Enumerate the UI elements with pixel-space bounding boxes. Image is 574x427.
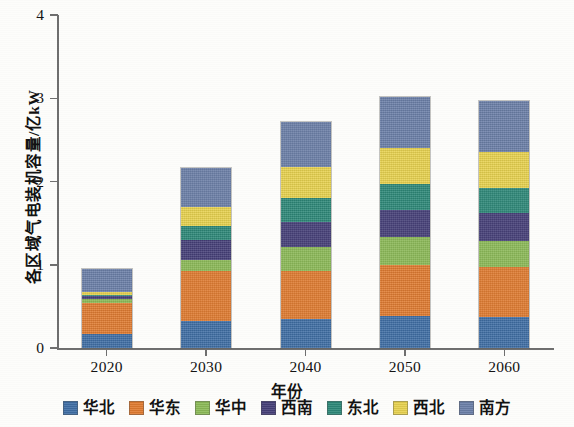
bar-segment-东北[interactable] [281, 198, 331, 221]
bar-segment-西北[interactable] [181, 207, 231, 225]
legend-item-华中[interactable]: 华中 [195, 400, 247, 416]
plot-area [57, 15, 554, 348]
legend-swatch-icon [393, 401, 408, 415]
bar-segment-西南[interactable] [479, 213, 529, 240]
y-axis-tick-label: 0 [0, 339, 44, 357]
bar-stack [380, 97, 430, 348]
legend-item-西南[interactable]: 西南 [261, 400, 313, 416]
bar-segment-华中[interactable] [380, 237, 430, 264]
legend-item-东北[interactable]: 东北 [327, 400, 379, 416]
bar-segment-南方[interactable] [181, 168, 231, 207]
bar-segment-西南[interactable] [82, 296, 132, 298]
bar-2040[interactable] [281, 15, 331, 348]
bar-segment-华北[interactable] [181, 321, 231, 348]
legend-swatch-icon [261, 401, 276, 415]
bar-segment-华东[interactable] [82, 303, 132, 334]
legend-swatch-icon [63, 401, 78, 415]
bar-segment-南方[interactable] [479, 101, 529, 153]
bar-segment-华北[interactable] [281, 319, 331, 348]
legend-swatch-icon [129, 401, 144, 415]
bar-2030[interactable] [181, 15, 231, 348]
bar-segment-华东[interactable] [281, 271, 331, 319]
x-axis-tick-label: 2040 [266, 358, 346, 376]
bar-segment-华中[interactable] [181, 260, 231, 271]
bar-segment-西北[interactable] [281, 167, 331, 198]
bar-segment-西北[interactable] [479, 152, 529, 188]
legend-item-华东[interactable]: 华东 [129, 400, 181, 416]
chart-legend: 华北华东华中西南东北西北南方 [0, 400, 574, 416]
x-axis-tick [205, 349, 207, 356]
bar-segment-华东[interactable] [380, 265, 430, 317]
bar-stack [82, 269, 132, 348]
x-axis-tick-label: 2050 [365, 358, 445, 376]
bar-segment-华北[interactable] [380, 316, 430, 348]
legend-swatch-icon [459, 401, 474, 415]
legend-label: 西北 [413, 400, 445, 416]
x-axis-tick-label: 2020 [67, 358, 147, 376]
bar-2050[interactable] [380, 15, 430, 348]
bar-segment-东北[interactable] [380, 184, 430, 210]
x-axis-title: 年份 [0, 379, 574, 401]
bar-segment-华中[interactable] [281, 247, 331, 270]
bar-stack [181, 168, 231, 348]
x-axis-tick-label: 2060 [464, 358, 544, 376]
bar-segment-西北[interactable] [82, 292, 132, 294]
bar-segment-华东[interactable] [479, 267, 529, 317]
y-axis-tick-label: 4 [0, 6, 44, 24]
legend-label: 华中 [215, 400, 247, 416]
x-axis-tick [106, 349, 108, 356]
bar-segment-华北[interactable] [479, 317, 529, 348]
legend-label: 南方 [479, 400, 511, 416]
legend-swatch-icon [195, 401, 210, 415]
legend-label: 东北 [347, 400, 379, 416]
y-axis-tick-label: 2 [0, 173, 44, 191]
x-axis-tick [305, 349, 307, 356]
x-axis-tick [504, 349, 506, 356]
legend-item-西北[interactable]: 西北 [393, 400, 445, 416]
legend-label: 西南 [281, 400, 313, 416]
bar-2060[interactable] [479, 15, 529, 348]
bar-segment-华东[interactable] [181, 271, 231, 321]
bar-segment-西南[interactable] [380, 210, 430, 237]
legend-swatch-icon [327, 401, 342, 415]
bar-stack [281, 122, 331, 348]
bar-segment-东北[interactable] [82, 295, 132, 297]
y-axis-tick-label: 1 [0, 256, 44, 274]
bar-segment-西南[interactable] [181, 240, 231, 260]
bar-segment-华中[interactable] [82, 299, 132, 303]
bar-segment-西南[interactable] [281, 222, 331, 248]
bar-segment-南方[interactable] [82, 269, 132, 292]
bar-segment-南方[interactable] [380, 97, 430, 148]
bar-segment-东北[interactable] [181, 226, 231, 240]
legend-label: 华东 [149, 400, 181, 416]
x-axis-tick [404, 349, 406, 356]
legend-item-南方[interactable]: 南方 [459, 400, 511, 416]
bar-segment-东北[interactable] [479, 188, 529, 213]
stacked-bar-chart-figure: 各区域气电装机容量/亿kW 01234 20202030204020502060… [0, 0, 574, 427]
x-axis-tick-label: 2030 [166, 358, 246, 376]
legend-item-华北[interactable]: 华北 [63, 400, 115, 416]
y-axis-tick-label: 3 [0, 89, 44, 107]
bar-2020[interactable] [82, 15, 132, 348]
bar-stack [479, 101, 529, 348]
bar-segment-华北[interactable] [82, 334, 132, 348]
bar-segment-华中[interactable] [479, 241, 529, 268]
bar-segment-西北[interactable] [380, 148, 430, 184]
bar-segment-南方[interactable] [281, 122, 331, 168]
legend-label: 华北 [83, 400, 115, 416]
